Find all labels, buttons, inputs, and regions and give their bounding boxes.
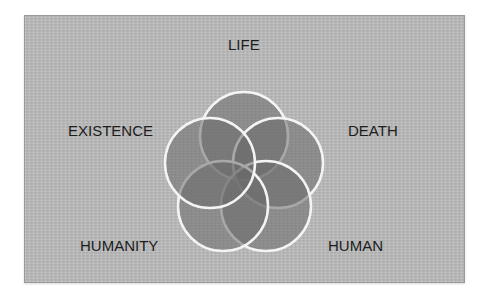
label-humanity: HUMANITY xyxy=(80,237,158,254)
label-death: DEATH xyxy=(348,122,398,139)
circle-existence xyxy=(165,118,255,208)
label-existence: EXISTENCE xyxy=(68,122,153,139)
label-life: LIFE xyxy=(228,36,260,53)
label-human: HUMAN xyxy=(328,237,383,254)
